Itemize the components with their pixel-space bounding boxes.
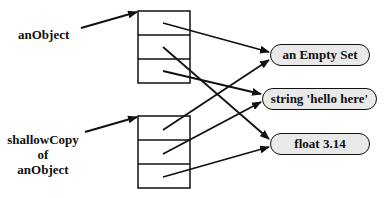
shallow-copy-label-line1: shallowCopy: [5, 132, 81, 147]
shallow-copy-label-line3: anObject: [5, 162, 81, 177]
anObject-label: anObject: [18, 27, 69, 42]
empty-set-object: an Empty Set: [270, 44, 370, 66]
string-object: string 'hello here': [262, 88, 377, 110]
anObject-pointer-arrow: [81, 12, 137, 28]
shallow-copy-label: shallowCopy of anObject: [5, 132, 81, 177]
anObject-slot1-arrow: [163, 23, 269, 52]
shallow-copy-pointer-arrow: [85, 117, 137, 132]
shallow-copy-label-line2: of: [5, 147, 81, 162]
copy-slot3-arrow: [163, 147, 269, 177]
copy-slot1-arrow: [163, 60, 269, 130]
float-object: float 3.14: [270, 133, 370, 155]
copy-slot2-arrow: [163, 102, 261, 154]
